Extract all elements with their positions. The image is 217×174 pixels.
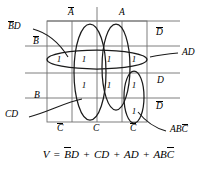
axis-label-d: D — [157, 76, 164, 86]
leader-line-cd — [29, 99, 82, 117]
equation-term-3: AD — [124, 148, 139, 160]
axis-label-not-b: B — [33, 37, 39, 47]
axis-label-not-c-left: C — [57, 124, 63, 134]
axis-label-not-d-bottom: D — [156, 102, 163, 112]
kmap-cell-r3c4: 1 — [129, 81, 139, 90]
leader-line-abc — [138, 112, 166, 131]
equation-term-2: CD — [94, 148, 109, 160]
equation-term-4: ABC — [153, 148, 174, 160]
group-label-abc: ABC — [170, 125, 188, 135]
kmap-cell-r2c2: 1 — [79, 55, 89, 64]
equation-lhs: V — [43, 148, 50, 160]
group-label-cd: CD — [5, 110, 18, 120]
kmap-figure: A A B B C C C D D D BD AD CD ABC 1 1 1 1… — [0, 0, 217, 174]
group-loop-cd — [74, 24, 106, 120]
equation: V = BD + CD + AD + ABC — [0, 148, 217, 160]
equation-term-1: BD — [64, 148, 79, 160]
axis-label-not-d-top: D — [156, 28, 163, 38]
kmap-cell-r4c4: 1 — [129, 107, 139, 116]
group-label-ad: AD — [182, 48, 195, 58]
equation-plus-1: + — [82, 148, 91, 160]
equation-plus-3: + — [141, 148, 150, 160]
equation-plus-2: + — [112, 148, 121, 160]
kmap-cell-r2c4: 1 — [129, 55, 139, 64]
axis-label-b: B — [34, 91, 40, 101]
kmap-cell-r2c1: 1 — [54, 55, 64, 64]
equation-equals: = — [52, 148, 61, 160]
kmap-cell-r3c2: 1 — [79, 81, 89, 90]
kmap-cell-r3c3: 1 — [104, 81, 114, 90]
group-label-bd: BD — [8, 22, 21, 32]
axis-label-not-c-right: C — [130, 124, 136, 134]
axis-label-not-a: A — [68, 8, 74, 18]
kmap-cell-r2c3: 1 — [104, 55, 114, 64]
axis-label-a: A — [119, 8, 125, 18]
axis-label-c: C — [93, 124, 99, 134]
leader-line-ad — [150, 53, 178, 57]
